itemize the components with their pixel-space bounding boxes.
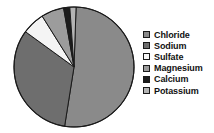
legend-item-chloride[interactable]: Chloride xyxy=(143,29,213,40)
legend-swatch-potassium xyxy=(143,87,150,94)
legend-item-sodium[interactable]: Sodium xyxy=(143,40,213,51)
legend-label-sodium: Sodium xyxy=(154,41,186,51)
legend-swatch-calcium xyxy=(143,76,150,83)
legend-label-sulfate: Sulfate xyxy=(154,52,183,62)
legend-swatch-sulfate xyxy=(143,53,150,60)
legend-swatch-sodium xyxy=(143,42,150,49)
legend-label-potassium: Potassium xyxy=(154,86,199,96)
legend-item-sulfate[interactable]: Sulfate xyxy=(143,51,213,62)
legend-swatch-magnesium xyxy=(143,65,150,72)
legend-item-potassium[interactable]: Potassium xyxy=(143,85,213,96)
chart-legend: Chloride Sodium Sulfate Magnesium Calciu… xyxy=(143,29,213,96)
legend-label-calcium: Calcium xyxy=(154,74,188,84)
pie-chart-svg xyxy=(13,6,135,128)
legend-item-magnesium[interactable]: Magnesium xyxy=(143,63,213,74)
legend-swatch-chloride xyxy=(143,31,150,38)
legend-item-calcium[interactable]: Calcium xyxy=(143,74,213,85)
pie-slice-group xyxy=(14,7,134,127)
pie-chart-figure: Chloride Sodium Sulfate Magnesium Calciu… xyxy=(0,0,214,133)
legend-label-magnesium: Magnesium xyxy=(154,63,203,73)
legend-label-chloride: Chloride xyxy=(154,30,190,40)
pie-chart-plot-area xyxy=(13,6,135,128)
